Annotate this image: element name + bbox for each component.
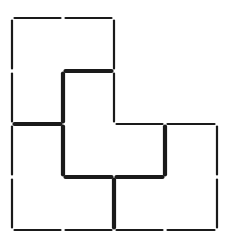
matchsticks-group — [12, 18, 217, 230]
matchstick-diagram — [0, 0, 234, 247]
